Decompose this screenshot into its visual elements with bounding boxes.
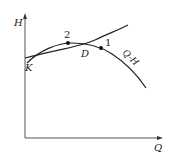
y-axis-arrow-icon: [23, 13, 27, 19]
pump-curve-label: Q-H: [121, 47, 141, 67]
axes: [23, 13, 163, 140]
x-axis-label: Q: [154, 142, 162, 153]
point-1-marker: [99, 46, 103, 50]
diagram-canvas: H Q K 2 D 1 Q-H: [0, 0, 174, 168]
point-d-label: D: [80, 48, 89, 59]
y-axis-label: H: [13, 17, 23, 28]
point-2-marker: [66, 41, 70, 45]
x-axis-arrow-icon: [157, 136, 163, 140]
point-2-label: 2: [64, 29, 70, 40]
diagram-svg: H Q K 2 D 1 Q-H: [0, 0, 174, 168]
point-1-label: 1: [105, 37, 111, 48]
point-k-label: K: [24, 62, 33, 73]
